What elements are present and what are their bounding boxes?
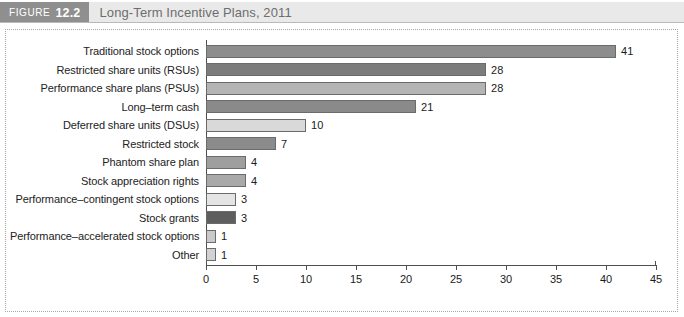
- bar-rows: Traditional stock options41Restricted sh…: [10, 42, 673, 264]
- bar-row: Other1: [10, 246, 673, 265]
- figure-header: FIGURE 12.2 Long-Term Incentive Plans, 2…: [0, 2, 684, 23]
- x-axis-tick-label: 10: [300, 273, 312, 285]
- bar-value-label: 21: [416, 101, 433, 113]
- bar-row: Performance–contingent stock options3: [10, 190, 673, 209]
- bar-track: 28: [206, 61, 673, 80]
- bar-row: Long–term cash21: [10, 98, 673, 117]
- bar-category-label: Performance share plans (PSUs): [10, 82, 206, 94]
- x-axis-tick: [506, 265, 507, 270]
- bar-track: 4: [206, 153, 673, 172]
- bar-row: Traditional stock options41: [10, 42, 673, 61]
- x-axis-tick-label: 20: [400, 273, 412, 285]
- bar-value-label: 3: [236, 193, 247, 205]
- bar-value-label: 41: [616, 45, 633, 57]
- bar-row: Performance–accelerated stock options1: [10, 227, 673, 246]
- x-axis-tick: [406, 265, 407, 270]
- x-axis-line: [206, 265, 656, 266]
- bar-track: 4: [206, 172, 673, 191]
- x-axis-tick: [256, 265, 257, 270]
- bar-category-label: Performance–contingent stock options: [10, 193, 206, 205]
- bar: [206, 193, 236, 206]
- figure-number-text: 12.2: [55, 6, 80, 20]
- bar-category-label: Stock appreciation rights: [10, 175, 206, 187]
- bar-value-label: 1: [216, 249, 227, 261]
- bar-category-label: Restricted stock: [10, 138, 206, 150]
- bar-track: 28: [206, 79, 673, 98]
- figure-container: FIGURE 12.2 Long-Term Incentive Plans, 2…: [0, 0, 684, 317]
- bar-value-label: 3: [236, 212, 247, 224]
- bar-track: 7: [206, 135, 673, 154]
- bar: [206, 211, 236, 224]
- x-axis-tick-label: 15: [350, 273, 362, 285]
- bar: [206, 63, 486, 76]
- x-axis-tick: [456, 265, 457, 270]
- bar-track: 21: [206, 98, 673, 117]
- figure-number-badge: FIGURE 12.2: [0, 2, 89, 23]
- bar-row: Deferred share units (DSUs)10: [10, 116, 673, 135]
- bar-row: Stock appreciation rights4: [10, 172, 673, 191]
- bar-track: 3: [206, 190, 673, 209]
- figure-label-text: FIGURE: [9, 7, 50, 18]
- x-axis-tick: [656, 265, 657, 270]
- bar: [206, 230, 216, 243]
- bar-row: Stock grants3: [10, 209, 673, 228]
- figure-title: Long-Term Incentive Plans, 2011: [89, 2, 292, 23]
- x-axis-tick: [356, 265, 357, 270]
- x-axis-tick: [556, 265, 557, 270]
- bar: [206, 174, 246, 187]
- bar-row: Performance share plans (PSUs)28: [10, 79, 673, 98]
- bar: [206, 248, 216, 261]
- bar-row: Restricted share units (RSUs)28: [10, 61, 673, 80]
- bar-value-label: 28: [486, 64, 503, 76]
- x-axis-tick-label: 25: [450, 273, 462, 285]
- bar-category-label: Stock grants: [10, 212, 206, 224]
- bar-value-label: 4: [246, 156, 257, 168]
- bar: [206, 82, 486, 95]
- bar-row: Restricted stock7: [10, 135, 673, 154]
- x-axis-tick-label: 45: [650, 273, 662, 285]
- bar-track: 1: [206, 227, 673, 246]
- x-axis-tick: [606, 265, 607, 270]
- bar-track: 1: [206, 246, 673, 265]
- x-axis-tick-label: 40: [600, 273, 612, 285]
- x-axis-tick-label: 0: [203, 273, 209, 285]
- bar-value-label: 28: [486, 82, 503, 94]
- bar-value-label: 10: [306, 119, 323, 131]
- bar-track: 41: [206, 42, 673, 61]
- bar-category-label: Restricted share units (RSUs): [10, 64, 206, 76]
- bar-category-label: Long–term cash: [10, 101, 206, 113]
- x-axis-tick-label: 30: [500, 273, 512, 285]
- bar-track: 3: [206, 209, 673, 228]
- x-axis-tick-label: 5: [253, 273, 259, 285]
- bar: [206, 119, 306, 132]
- chart-plot-area: Traditional stock options41Restricted sh…: [10, 34, 673, 307]
- bar-track: 10: [206, 116, 673, 135]
- bar: [206, 100, 416, 113]
- bar-category-label: Other: [10, 249, 206, 261]
- bar-category-label: Traditional stock options: [10, 45, 206, 57]
- bar-category-label: Phantom share plan: [10, 156, 206, 168]
- bar-row: Phantom share plan4: [10, 153, 673, 172]
- x-axis-tick: [306, 265, 307, 270]
- bar-value-label: 7: [276, 138, 287, 150]
- bar: [206, 156, 246, 169]
- x-axis-tick: [206, 265, 207, 270]
- bar-category-label: Deferred share units (DSUs): [10, 119, 206, 131]
- x-axis-tick-label: 35: [550, 273, 562, 285]
- x-axis: 051015202530354045: [206, 265, 662, 305]
- bar: [206, 45, 616, 58]
- bar-value-label: 4: [246, 175, 257, 187]
- bar: [206, 137, 276, 150]
- bar-category-label: Performance–accelerated stock options: [10, 230, 206, 242]
- bar-value-label: 1: [216, 230, 227, 242]
